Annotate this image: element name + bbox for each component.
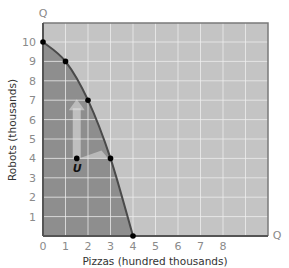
x-tick-label: 2	[85, 240, 92, 253]
y-tick-label: 7	[29, 94, 36, 107]
y-tick-label: 4	[29, 152, 36, 165]
plot-area: U01234567812345678910QQPizzas (hundred t…	[6, 7, 282, 267]
y-tick-label: 3	[29, 172, 36, 185]
x-axis-title: Pizzas (hundred thousands)	[82, 255, 227, 267]
point-u-marker	[74, 156, 80, 162]
x-tick-label: 0	[40, 240, 47, 253]
x-tick-label: 5	[152, 240, 159, 253]
y-tick-label: 1	[29, 211, 36, 224]
x-tick-label: 7	[197, 240, 204, 253]
y-tick-label: 8	[29, 75, 36, 88]
x-axis-end-label: Q	[273, 229, 282, 242]
data-point	[108, 156, 114, 162]
y-tick-label: 5	[29, 133, 36, 146]
data-point	[40, 39, 46, 45]
y-axis-end-label: Q	[39, 7, 48, 20]
x-tick-label: 1	[62, 240, 69, 253]
y-axis-title: Robots (thousands)	[6, 79, 18, 181]
data-point	[63, 59, 69, 65]
x-tick-label: 8	[220, 240, 227, 253]
y-tick-label: 6	[29, 114, 36, 127]
x-tick-label: 4	[130, 240, 137, 253]
point-u-label: U	[73, 162, 82, 175]
y-tick-label: 2	[29, 191, 36, 204]
x-tick-label: 3	[107, 240, 114, 253]
data-point	[130, 233, 136, 239]
data-point	[85, 97, 91, 103]
x-tick-label: 6	[175, 240, 182, 253]
arrow-up-icon	[73, 108, 81, 158]
y-tick-label: 9	[29, 55, 36, 68]
y-tick-label: 10	[22, 36, 36, 49]
ppf-chart: U01234567812345678910QQPizzas (hundred t…	[0, 0, 289, 268]
